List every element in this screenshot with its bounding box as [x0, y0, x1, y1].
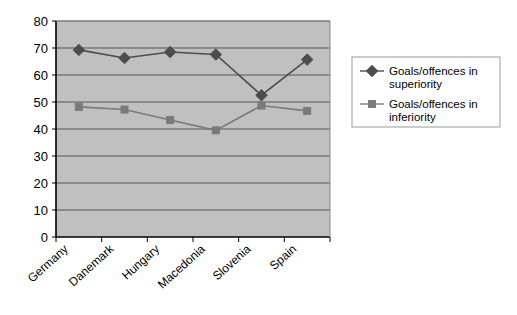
- y-tick-label: 80: [34, 14, 48, 29]
- data-point-marker: [304, 107, 311, 114]
- x-axis-labels: GermanyDanemarkHungaryMacedoniaSloveniaS…: [25, 241, 299, 291]
- chart-canvas: 01020304050607080GermanyDanemarkHungaryM…: [0, 0, 517, 315]
- legend-label-line1: Goals/offences in: [389, 98, 478, 110]
- y-tick-label: 40: [34, 122, 48, 137]
- x-tick-label: Danemark: [66, 241, 117, 289]
- y-axis-ticks: 01020304050607080: [34, 14, 56, 245]
- data-point-marker: [212, 127, 219, 134]
- y-tick-label: 60: [34, 68, 48, 83]
- x-tick-label: Spain: [267, 242, 299, 273]
- y-tick-label: 30: [34, 149, 48, 164]
- y-tick-label: 10: [34, 203, 48, 218]
- data-point-marker: [75, 103, 82, 110]
- x-tick-label: Germany: [25, 242, 71, 285]
- y-tick-label: 20: [34, 176, 48, 191]
- data-point-marker: [167, 117, 174, 124]
- legend-label-line1: Goals/offences in: [389, 65, 478, 77]
- square-marker-icon: [369, 101, 376, 108]
- data-point-marker: [121, 106, 128, 113]
- x-tick-label: Hungary: [119, 242, 162, 283]
- x-tick-label: Slovenia: [210, 242, 254, 283]
- x-tick-label: Macedonia: [155, 242, 208, 292]
- data-point-marker: [258, 102, 265, 109]
- y-tick-label: 0: [41, 230, 48, 245]
- legend-label-line2: inferiority: [389, 111, 436, 123]
- line-chart: 01020304050607080GermanyDanemarkHungaryM…: [0, 0, 517, 315]
- legend-label-line2: superiority: [389, 78, 442, 90]
- y-tick-label: 50: [34, 95, 48, 110]
- y-tick-label: 70: [34, 41, 48, 56]
- chart-legend: Goals/offences insuperiorityGoals/offenc…: [352, 57, 500, 127]
